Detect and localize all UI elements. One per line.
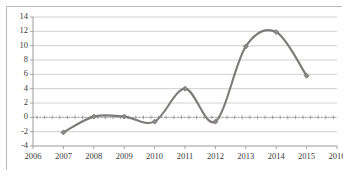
x-tick-label: 2014 (268, 151, 286, 161)
y-tick-label: 12 (20, 25, 29, 35)
x-tick-label: 2009 (116, 151, 133, 161)
x-tick-label: 2013 (237, 151, 254, 161)
y-tick-label: -4 (21, 140, 29, 150)
x-tick-label: 2012 (207, 151, 224, 161)
y-tick-label: 0 (24, 111, 28, 121)
x-tick-label: 2010 (146, 151, 163, 161)
line-chart: 14121086420-2-4 200620072008200920102011… (7, 7, 343, 171)
y-tick-label: 2 (24, 97, 28, 107)
x-tick-label: 2015 (298, 151, 315, 161)
chart-frame: 14121086420-2-4 200620072008200920102011… (6, 6, 342, 170)
y-tick-label: 8 (24, 54, 28, 64)
x-tick-label: 2016 (329, 151, 344, 161)
y-tick-label: -2 (21, 126, 28, 136)
y-tick-label: 10 (20, 40, 29, 50)
x-tick-label: 2006 (25, 151, 42, 161)
y-tick-label: 6 (24, 68, 28, 78)
x-tick-label: 2007 (55, 151, 72, 161)
y-tick-label: 14 (20, 11, 29, 21)
x-tick-label: 2011 (177, 151, 194, 161)
x-tick-label: 2008 (85, 151, 102, 161)
